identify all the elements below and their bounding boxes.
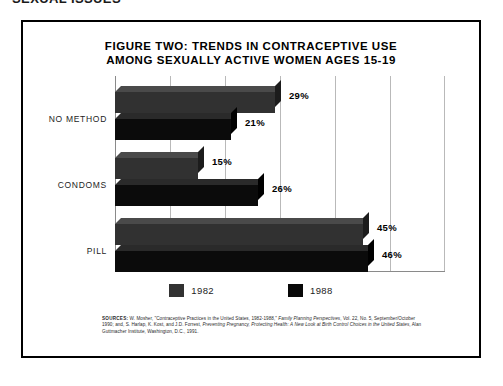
- figure-title-line-1: FIGURE TWO: TRENDS IN CONTRACEPTIVE USE: [105, 40, 397, 52]
- figure-title-line-2: AMONG SEXUALLY ACTIVE WOMEN AGES 15-19: [41, 53, 461, 67]
- bar-side-face: [363, 212, 369, 239]
- source-note-line2-italic: Preventing Pregnancy, Protecting Health:…: [202, 322, 293, 327]
- bar-front-face: [115, 158, 198, 179]
- category-axis-labels: NO METHOD CONDOMS PILL: [23, 76, 111, 276]
- bar-front-face: [115, 119, 231, 140]
- source-note: SOURCES: W. Mosher, "Contraceptive Pract…: [102, 316, 422, 335]
- source-note-line1-italic: Family Planning Perspectives: [278, 316, 340, 321]
- figure-frame: FIGURE TWO: TRENDS IN CONTRACEPTIVE USE …: [21, 20, 481, 358]
- bar-condoms-1988: [115, 179, 258, 200]
- category-label-pill: PILL: [87, 246, 107, 256]
- category-label-condoms: CONDOMS: [58, 180, 107, 190]
- source-note-lead: SOURCES:: [102, 316, 128, 321]
- bar-value-pill-1988: 46%: [382, 249, 402, 260]
- bar-front-face: [115, 251, 368, 272]
- bar-side-face: [368, 239, 374, 266]
- bar-side-face: [198, 146, 204, 173]
- category-label-no-method: NO METHOD: [49, 114, 107, 124]
- source-note-line3-italic: New Look at Birth Control Choices in the…: [294, 322, 409, 327]
- legend-label-1982: 1982: [191, 285, 214, 296]
- bar-value-no-method-1988: 21%: [245, 117, 265, 128]
- source-note-line1-a: W. Mosher, "Contraceptive Practices in t…: [128, 316, 278, 321]
- legend-item-1988[interactable]: 1988: [288, 284, 333, 297]
- chart-grid: 29% 21% 15% 26%: [115, 76, 445, 272]
- bar-condoms-1982: [115, 152, 198, 173]
- chart-legend: 1982 1988: [23, 284, 479, 297]
- bar-pill-1982: [115, 218, 363, 239]
- bar-no-method-1982: [115, 86, 275, 107]
- bar-value-no-method-1982: 29%: [289, 90, 309, 101]
- figure-title: FIGURE TWO: TRENDS IN CONTRACEPTIVE USE …: [23, 39, 479, 67]
- bar-front-face: [115, 185, 258, 206]
- bar-front-face: [115, 92, 275, 113]
- legend-swatch-icon-1988: [288, 284, 303, 297]
- bar-side-face: [258, 173, 264, 200]
- source-note-line1-b: , Vol. 22,: [340, 316, 358, 321]
- bar-no-method-1988: [115, 113, 231, 134]
- gridline-50: [390, 76, 391, 272]
- chart-plot-area: NO METHOD CONDOMS PILL 29%: [23, 76, 479, 276]
- bar-side-face: [231, 107, 237, 134]
- legend-swatch-icon-1982: [169, 284, 184, 297]
- bar-front-face: [115, 224, 363, 245]
- bar-value-condoms-1988: 26%: [272, 183, 292, 194]
- bar-value-pill-1982: 45%: [377, 222, 397, 233]
- gridline-60: [444, 76, 445, 272]
- bar-value-condoms-1982: 15%: [212, 156, 232, 167]
- legend-item-1982[interactable]: 1982: [169, 284, 214, 297]
- legend-label-1988: 1988: [310, 285, 333, 296]
- bar-pill-1988: [115, 245, 368, 266]
- page-running-head: SEXUAL ISSUES: [12, 0, 121, 5]
